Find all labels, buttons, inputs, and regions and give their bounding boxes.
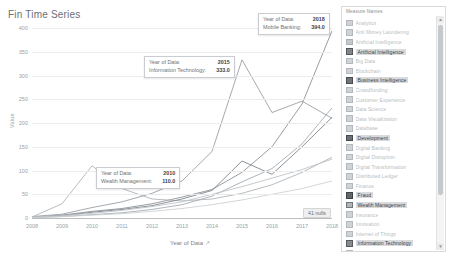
legend-item[interactable]: Internet of Things [344, 229, 432, 239]
legend-item-label: Wealth Management [356, 202, 408, 208]
plot-container: 0501001502002503003504002008200920102011… [0, 24, 340, 224]
x-axis-tick-label[interactable]: 2013 [176, 223, 188, 229]
legend-item[interactable]: Digital Transformation [344, 162, 432, 172]
legend-color-swatch [346, 115, 353, 122]
x-axis-tick-label[interactable]: 2014 [206, 223, 218, 229]
tooltip-row: Year of Data:2010 [101, 170, 175, 178]
legend-item-label: Business Intelligence [356, 77, 409, 83]
tooltip-row: Year of Data:2018 [263, 16, 325, 24]
legend-item[interactable]: Customer Experience [344, 95, 432, 105]
gridline [32, 99, 332, 100]
legend-item-label: Database [356, 125, 378, 131]
legend-item[interactable]: Crowdfunding [344, 85, 432, 95]
page-title: Fin Time Series [8, 9, 80, 20]
legend-item[interactable]: Distributed Ledger [344, 172, 432, 182]
legend-color-swatch [346, 58, 353, 65]
legend-color-swatch [346, 20, 353, 27]
legend-color-swatch [346, 68, 353, 75]
legend-color-swatch [346, 231, 353, 238]
gridline [32, 52, 332, 53]
legend-color-swatch [346, 39, 353, 46]
x-axis-tick-label[interactable]: 2017 [296, 223, 308, 229]
legend-color-swatch [346, 144, 353, 151]
x-axis-tick-label[interactable]: 2018 [326, 223, 338, 229]
legend-item[interactable]: Analytics [344, 18, 432, 28]
gridline [32, 171, 332, 172]
scroll-up-icon[interactable]: ▲ [437, 16, 444, 23]
legend-item[interactable]: Digital Banking [344, 143, 432, 153]
scroll-down-icon[interactable]: ▼ [437, 243, 444, 250]
y-axis-tick-label: 300 [19, 73, 28, 79]
legend-item[interactable]: Development [344, 133, 432, 143]
tooltip-key: Mobile Banking: [263, 24, 301, 32]
gridline [32, 194, 332, 195]
series-line[interactable] [32, 60, 332, 217]
gridline [32, 123, 332, 124]
legend-item-label: Analytics [356, 20, 377, 26]
legend-color-swatch [346, 125, 353, 132]
fin-time-series-viz: Fin Time Series 050100150200250300350400… [0, 0, 452, 258]
legend-item-label: Artificial Intelligence [356, 39, 402, 45]
y-axis-tick-label: 100 [19, 168, 28, 174]
legend-item[interactable]: Information Technology [344, 239, 432, 249]
legend-item[interactable]: Data Visualization [344, 114, 432, 124]
legend-list: AnalyticsAnti Money LaunderingArtificial… [344, 18, 432, 252]
legend-color-swatch [346, 87, 353, 94]
legend-item-label: Data Visualization [356, 116, 398, 122]
legend-item-label: Knowledge Sharing [356, 250, 401, 252]
legend-item[interactable]: Fraud [344, 191, 432, 201]
legend-panel: Measure Names AnalyticsAnti Money Launde… [341, 6, 446, 252]
legend-color-swatch [346, 173, 353, 180]
legend-item[interactable]: Database [344, 124, 432, 134]
legend-item-label: Distributed Ledger [356, 173, 399, 179]
legend-item[interactable]: Big Data [344, 56, 432, 66]
legend-item[interactable]: Knowledge Sharing [344, 248, 432, 252]
y-axis-tick-label: 50 [22, 191, 28, 197]
legend-item-label: Anti Money Laundering [356, 29, 409, 35]
legend-item[interactable]: Anti Money Laundering [344, 28, 432, 38]
sort-ascending-icon[interactable]: ↗ [205, 240, 210, 246]
legend-item[interactable]: Blockchain [344, 66, 432, 76]
tooltip-row: Mobile Banking:394.0 [263, 24, 325, 32]
x-axis-tick-label[interactable]: 2010 [86, 223, 98, 229]
legend-item[interactable]: Data Science [344, 104, 432, 114]
scrollbar-thumb[interactable] [438, 25, 443, 195]
legend-item-label: Data Science [356, 106, 387, 112]
x-axis-tick-label[interactable]: 2016 [266, 223, 278, 229]
legend-color-swatch [346, 240, 353, 247]
legend-item[interactable]: Wealth Management [344, 200, 432, 210]
legend-item-label: Internet of Things [356, 231, 396, 237]
x-axis-title[interactable]: Year of Data↗ [170, 239, 210, 246]
series-line[interactable] [32, 117, 332, 217]
x-axis-tick-label[interactable]: 2012 [146, 223, 158, 229]
legend-item[interactable]: Business Intelligence [344, 76, 432, 86]
legend-color-swatch [346, 154, 353, 161]
legend-item-label: Information Technology [356, 240, 414, 246]
y-axis-tick-label: 200 [19, 120, 28, 126]
y-axis-tick-label: 150 [19, 144, 28, 150]
x-axis-tick-label[interactable]: 2008 [26, 223, 38, 229]
tooltip-value: 2018 [313, 16, 325, 24]
legend-item[interactable]: Digital Disruption [344, 152, 432, 162]
x-axis-baseline [32, 218, 332, 219]
gridline [32, 147, 332, 148]
tooltip-row: Year of Data:2015 [149, 59, 230, 67]
x-axis-title-text: Year of Data [170, 240, 203, 246]
legend-item[interactable]: Insurance [344, 210, 432, 220]
legend-scrollbar[interactable]: ▲ ▼ [436, 16, 444, 250]
x-axis-tick-label[interactable]: 2015 [236, 223, 248, 229]
legend-item[interactable]: Innovation [344, 219, 432, 229]
tooltip-value: 394.0 [311, 24, 325, 32]
legend-color-swatch [346, 221, 353, 228]
tooltip: Year of Data:2015Information Technology:… [144, 56, 235, 78]
legend-color-swatch [346, 202, 353, 209]
legend-item[interactable]: Artificial Intelligence [344, 37, 432, 47]
x-axis-tick-label[interactable]: 2011 [116, 223, 128, 229]
legend-item[interactable]: Finance [344, 181, 432, 191]
tooltip-value: 110.0 [162, 178, 175, 186]
null-count-badge[interactable]: 41 nulls [303, 208, 331, 218]
legend-item[interactable]: Artificial Intelligence [344, 47, 432, 57]
x-axis-tick-label[interactable]: 2009 [56, 223, 68, 229]
tooltip-value: 333.0 [216, 67, 230, 75]
tooltip-value: 2015 [218, 59, 230, 67]
